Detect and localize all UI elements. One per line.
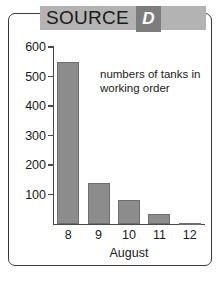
bar-aug-8 [57, 62, 79, 224]
bar-aug-12 [179, 223, 201, 225]
y-tick-label-600: 600 [6, 41, 46, 53]
x-tick-label-9: 9 [87, 228, 111, 242]
y-tick-300 [48, 135, 54, 136]
x-tick-label-11: 11 [147, 228, 171, 242]
y-tick-200 [48, 164, 54, 165]
y-tick-label-300: 300 [6, 130, 46, 142]
y-tick-label-500: 500 [6, 71, 46, 83]
y-tick-label-100: 100 [6, 189, 46, 201]
x-tick-label-10: 10 [117, 228, 141, 242]
y-tick-100 [48, 194, 54, 195]
x-axis-title: August [53, 246, 205, 260]
x-tick-label-8: 8 [56, 228, 80, 242]
x-tick-label-12: 12 [178, 228, 202, 242]
bar-aug-10 [118, 200, 140, 224]
chart-annotation: numbers of tanks in working order [100, 68, 204, 95]
page-title: SOURCE [46, 7, 129, 29]
y-tick-600 [48, 46, 54, 47]
source-d-figure: SOURCE D 100200300400500600 89101112 num… [0, 0, 222, 281]
y-tick-400 [48, 105, 54, 106]
bar-aug-11 [148, 214, 170, 224]
bar-aug-9 [88, 183, 110, 224]
source-badge-label: D [136, 6, 161, 32]
y-tick-label-200: 200 [6, 159, 46, 171]
y-tick-500 [48, 76, 54, 77]
bar-chart: 100200300400500600 89101112 numbers of t… [0, 0, 222, 281]
y-tick-label-400: 400 [6, 100, 46, 112]
